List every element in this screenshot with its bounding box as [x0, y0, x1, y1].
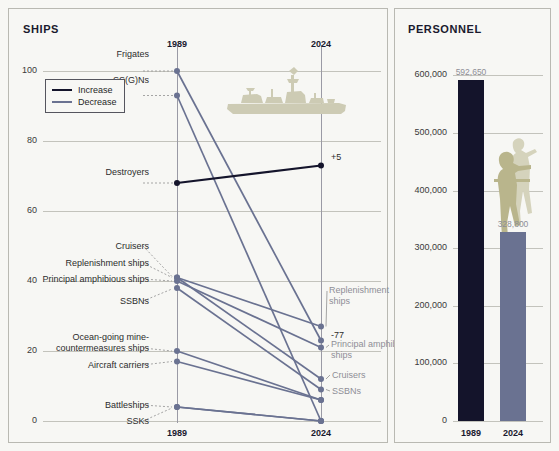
ships-label-destroyers: Destroyers: [105, 167, 149, 178]
leader-line: [326, 291, 327, 327]
personnel-year-1989: 1989: [451, 428, 491, 438]
personnel-bar-1989: [458, 80, 484, 421]
ships-label-ssks: SSKs: [126, 416, 149, 427]
ships-label-mine-countermeasures-line2: countermeasures ships: [56, 343, 149, 354]
ships-endlabel-ssbns: SSBNs: [332, 386, 361, 397]
ships-annotation-plus5: +5: [331, 152, 341, 162]
leader-line: [326, 375, 330, 379]
legend-label-increase: Increase: [78, 85, 113, 95]
ships-label-principal-amphibious-ships: Principal amphibious ships: [42, 274, 149, 285]
ships-label-replenishment-ships: Replenishment ships: [65, 258, 149, 269]
legend-label-decrease: Decrease: [78, 97, 117, 107]
personnel-bar-value-1989: 592,650: [441, 67, 501, 77]
ships-label-frigates: Frigates: [116, 49, 149, 60]
legend-item-decrease: Decrease: [52, 96, 117, 108]
leader-line: [326, 345, 329, 348]
ships-label-battleships: Battleships: [105, 400, 149, 411]
legend-item-increase: Increase: [52, 84, 117, 96]
ships-endlabel-replenishment-line1: Replenishment: [329, 285, 389, 296]
ships-year-bottom-2024: 2024: [301, 428, 341, 438]
ships-label-ssbns: SSBNs: [120, 296, 149, 307]
legend-swatch-decrease: [52, 101, 72, 103]
ships-year-bottom-1989: 1989: [157, 428, 197, 438]
personnel-bar-value-2024: 328,800: [483, 219, 543, 229]
leader-line: [326, 390, 330, 392]
ships-endlabel-principal-amphibious-line2: ships: [331, 350, 352, 361]
ships-label-cruisers: Cruisers: [115, 241, 149, 252]
ships-label-aircraft-carriers: Aircraft carriers: [88, 360, 149, 371]
personnel-bar-2024: [500, 232, 526, 421]
ships-legend: Increase Decrease: [45, 79, 125, 113]
legend-swatch-increase: [52, 89, 72, 91]
personnel-year-2024: 2024: [493, 428, 533, 438]
ships-year-top-2024: 2024: [301, 39, 341, 49]
personnel-panel: PERSONNEL 0100,000200,000300,000400,0005…: [394, 8, 551, 443]
ships-annotation-minus77: -77: [331, 330, 344, 340]
ships-year-top-1989: 1989: [157, 39, 197, 49]
ships-label-mine-countermeasures-line1: Ocean-going mine-: [72, 332, 149, 343]
ships-endlabel-replenishment-line2: ships: [329, 296, 350, 307]
ships-endlabel-cruisers: Cruisers: [332, 370, 366, 381]
ships-panel: SHIPS 100806040200: [8, 8, 388, 443]
infographic-root: SHIPS 100806040200: [0, 0, 559, 451]
